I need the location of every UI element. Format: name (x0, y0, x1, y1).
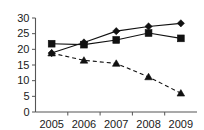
data-point-marker (145, 30, 152, 37)
series-marker-group (48, 20, 185, 96)
y-axis-tick-label: 5 (23, 90, 29, 102)
series-line-triangle (52, 53, 181, 93)
line-chart: 051015202530 20052006200720082009 (0, 0, 204, 129)
data-point-marker (113, 28, 120, 35)
data-point-marker (112, 60, 120, 66)
data-point-marker (48, 40, 55, 47)
x-axis-tick-label: 2009 (169, 118, 193, 130)
chart-canvas: 051015202530 20052006200720082009 (0, 0, 204, 129)
y-axis-tick-label: 25 (17, 27, 29, 39)
x-axis-tick-label: 2008 (136, 118, 160, 130)
y-axis-tick-label: 20 (17, 43, 29, 55)
y-axis-tick-label: 10 (17, 74, 29, 86)
x-axis-tick-label: 2007 (104, 118, 128, 130)
data-point-marker (81, 41, 88, 48)
data-point-marker (145, 73, 153, 79)
data-point-marker (145, 23, 152, 30)
data-point-marker (177, 90, 185, 96)
data-point-marker (113, 37, 120, 44)
x-axis-tick-group: 20052006200720082009 (39, 112, 193, 129)
y-axis-tick-label: 30 (17, 12, 29, 24)
x-axis-tick-label: 2005 (39, 118, 63, 130)
y-axis-tick-group: 051015202530 (17, 12, 35, 118)
y-axis-tick-label: 0 (23, 106, 29, 118)
x-axis-tick-label: 2006 (72, 118, 96, 130)
data-point-marker (177, 35, 184, 42)
data-point-marker (177, 20, 184, 27)
y-axis-tick-label: 15 (17, 59, 29, 71)
